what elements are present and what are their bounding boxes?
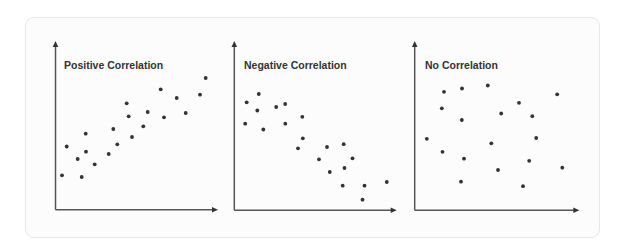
data-point <box>385 180 389 184</box>
data-point <box>442 90 446 94</box>
data-point <box>159 87 163 91</box>
panel-title: Positive Correlation <box>64 59 163 71</box>
data-point <box>460 87 464 91</box>
data-point <box>555 92 559 96</box>
data-point <box>80 175 84 179</box>
data-point <box>301 136 305 140</box>
data-point <box>328 170 332 174</box>
data-point <box>363 184 367 188</box>
panel-title: No Correlation <box>425 59 498 71</box>
data-point <box>317 157 321 161</box>
x-axis-arrow-icon <box>391 207 397 213</box>
data-point <box>261 128 265 132</box>
data-point <box>341 184 345 188</box>
data-point <box>534 136 538 140</box>
data-point <box>115 142 119 146</box>
data-point <box>440 106 444 110</box>
data-point <box>146 110 150 114</box>
y-axis-arrow-icon <box>232 41 238 47</box>
data-point <box>204 76 208 80</box>
data-point <box>283 122 287 126</box>
data-point <box>521 184 525 188</box>
data-point <box>325 145 329 149</box>
data-point <box>76 157 80 161</box>
data-point <box>255 109 259 113</box>
data-point <box>243 122 247 126</box>
data-point <box>60 173 64 177</box>
data-point <box>460 118 464 122</box>
data-point <box>198 93 202 97</box>
data-point <box>245 100 249 104</box>
data-point <box>361 198 365 202</box>
data-point <box>527 159 531 163</box>
data-point <box>141 124 145 128</box>
data-point <box>351 156 355 160</box>
data-point <box>65 145 69 149</box>
data-point <box>130 135 134 139</box>
data-point <box>296 146 300 150</box>
data-point <box>125 101 129 105</box>
data-point <box>489 141 493 145</box>
data-point <box>462 157 466 161</box>
data-point <box>342 142 346 146</box>
data-point <box>175 96 179 100</box>
data-point <box>283 102 287 106</box>
data-point <box>425 137 429 141</box>
panel-negative-correlation: Negative Correlation <box>232 41 397 213</box>
data-point <box>111 127 115 131</box>
data-point <box>107 152 111 156</box>
data-point <box>517 101 521 105</box>
scatter-plots: Positive Correlation Negative Correlatio… <box>0 0 625 247</box>
data-point <box>560 166 564 170</box>
data-point <box>459 180 463 184</box>
data-point <box>499 112 503 116</box>
x-axis-arrow-icon <box>212 207 218 213</box>
data-point <box>184 111 188 115</box>
data-point <box>84 150 88 154</box>
y-axis-arrow-icon <box>412 41 418 47</box>
data-point <box>127 114 131 118</box>
data-point <box>84 132 88 136</box>
data-point <box>530 114 534 118</box>
data-point <box>343 166 347 170</box>
data-point <box>441 150 445 154</box>
data-point <box>486 84 490 88</box>
data-point <box>257 92 261 96</box>
panel-no-correlation: No Correlation <box>412 41 579 213</box>
panel-positive-correlation: Positive Correlation <box>53 41 218 213</box>
x-axis-arrow-icon <box>573 208 579 214</box>
data-point <box>300 115 304 119</box>
data-point <box>274 105 278 109</box>
data-point <box>162 115 166 119</box>
y-axis-arrow-icon <box>53 41 59 47</box>
data-point <box>93 162 97 166</box>
data-point <box>496 168 500 172</box>
panel-title: Negative Correlation <box>244 59 347 71</box>
